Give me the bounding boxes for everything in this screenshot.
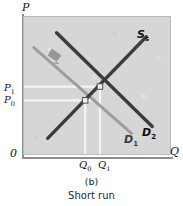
- supply-curve-label: Ss: [137, 29, 149, 43]
- figure-caption: (b) Short run: [0, 176, 183, 202]
- supply-curve-label-subscript: s: [145, 35, 149, 43]
- y-axis-label: P: [22, 2, 29, 13]
- demand-curve-d2-label-subscript: 2: [151, 133, 156, 141]
- price-tick-p0: P0: [4, 95, 15, 108]
- price-tick-p0-base: P: [4, 94, 11, 105]
- price-tick-p1-base: P: [4, 82, 11, 93]
- price-tick-p0-subscript: 0: [11, 100, 15, 108]
- quantity-tick-q0-subscript: 0: [87, 165, 91, 173]
- quantity-tick-q1-base: Q: [98, 159, 106, 170]
- supply-curve-label-base: S: [137, 28, 145, 41]
- panel-label: (b): [0, 176, 183, 187]
- equilibrium-point-short-run: [97, 84, 103, 90]
- figure-short-run-supply-demand: P Q 0 P1 P0 Q0 Q1 Ss D1 D2 (b) Short run: [0, 0, 183, 206]
- quantity-tick-q0: Q0: [79, 160, 91, 173]
- demand-curve-d1-label: D1: [124, 134, 138, 148]
- demand-curve-d1-label-subscript: 1: [133, 140, 138, 148]
- origin-label: 0: [10, 148, 17, 159]
- x-axis-label: Q: [170, 146, 179, 157]
- demand-curve-d1-label-base: D: [124, 133, 133, 146]
- demand-curve-d2-label: D2: [142, 127, 156, 141]
- caption-text: Short run: [0, 190, 183, 202]
- equilibrium-point-initial: [82, 98, 88, 104]
- quantity-tick-q0-base: Q: [79, 159, 87, 170]
- demand-curve-d2-label-base: D: [142, 126, 151, 139]
- quantity-tick-q1-subscript: 1: [106, 165, 110, 173]
- quantity-tick-q1: Q1: [98, 160, 110, 173]
